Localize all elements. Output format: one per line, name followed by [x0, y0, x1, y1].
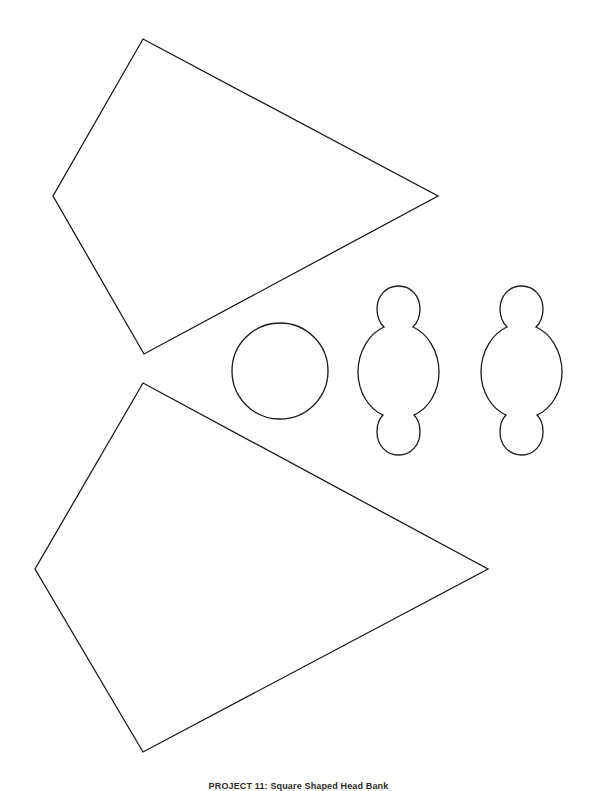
cut-out-template-canvas [0, 0, 597, 791]
project-caption: PROJECT 11: Square Shaped Head Bank [0, 782, 597, 791]
circle-middle-shape [232, 323, 328, 419]
template-page: PROJECT 11: Square Shaped Head Bank [0, 0, 597, 791]
caption-bar: PROJECT 11: Square Shaped Head Bank [0, 782, 597, 791]
